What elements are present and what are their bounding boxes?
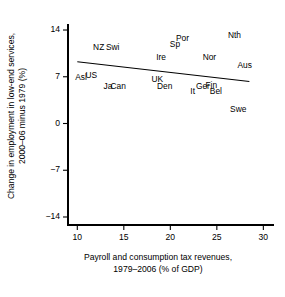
y-tick-label: −7 bbox=[34, 164, 60, 174]
x-tick-label: 25 bbox=[204, 232, 230, 242]
axis-and-fit-line bbox=[30, 14, 280, 259]
data-point-label: Swi bbox=[106, 42, 120, 51]
x-tick-label: 30 bbox=[250, 232, 276, 242]
scatter-plot-figure: Change in employment in low-end services… bbox=[0, 0, 285, 297]
data-point-label: Can bbox=[111, 82, 126, 91]
y-axis-title-line-1: Change in employment in low-end services… bbox=[6, 33, 17, 199]
x-tick-label: 15 bbox=[111, 232, 137, 242]
x-tick-label: 10 bbox=[64, 232, 90, 242]
x-tick-label: 20 bbox=[157, 232, 183, 242]
y-axis-title: Change in employment in low-end services… bbox=[0, 0, 34, 232]
data-point-label: Den bbox=[157, 82, 172, 91]
y-tick-label: 14 bbox=[34, 24, 60, 34]
data-point-label: Por bbox=[176, 34, 189, 43]
data-point-label: NZ bbox=[93, 42, 104, 51]
y-tick-label: 7 bbox=[34, 71, 60, 81]
data-point-label: Swe bbox=[230, 104, 246, 113]
data-point-label: Ire bbox=[156, 53, 166, 62]
data-point-label: It bbox=[190, 86, 195, 95]
y-tick-label: −14 bbox=[34, 211, 60, 221]
plot-area: 1470−7−141015202530 AslUSNZJaSwiCanUKIre… bbox=[68, 22, 268, 225]
y-tick-label: 0 bbox=[34, 118, 60, 128]
x-axis-title-line-2: 1979–2006 (% of GDP) bbox=[34, 264, 282, 276]
y-axis-title-line-2: 2000–06 minus 1979 (%) bbox=[17, 33, 28, 199]
data-point-label: US bbox=[85, 70, 97, 79]
data-point-label: Bel bbox=[210, 86, 222, 95]
data-point-label: Nor bbox=[203, 52, 217, 61]
data-point-label: Nth bbox=[228, 31, 241, 40]
data-point-label: Aus bbox=[238, 60, 252, 69]
